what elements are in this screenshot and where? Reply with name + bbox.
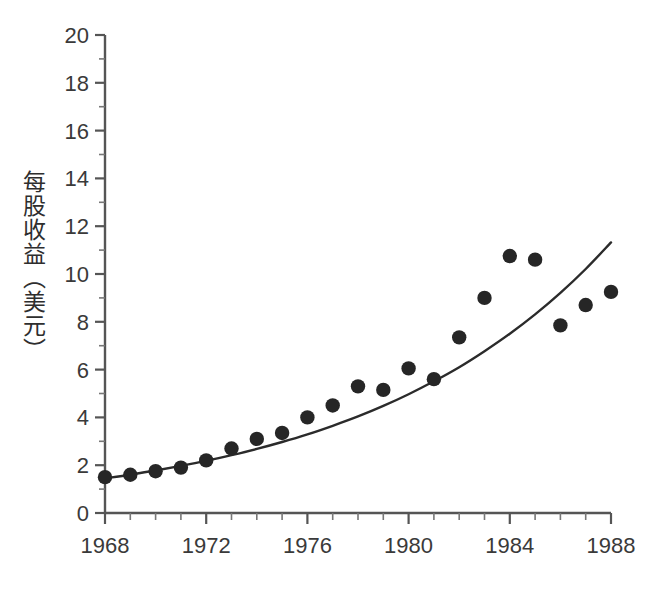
data-point — [148, 464, 162, 478]
x-tick-label: 1984 — [485, 533, 534, 558]
data-point — [174, 460, 188, 474]
data-point — [452, 330, 466, 344]
y-axis-ticks — [95, 35, 105, 513]
data-point — [427, 372, 441, 386]
data-point — [199, 453, 213, 467]
y-tick-label: 8 — [77, 310, 89, 335]
x-tick-label: 1976 — [283, 533, 332, 558]
y-tick-label: 20 — [65, 23, 89, 48]
data-point — [351, 379, 365, 393]
plot-area: 02468101214161820 1968197219761980198419… — [0, 0, 662, 591]
x-tick-label: 1972 — [182, 533, 231, 558]
y-axis-tick-labels: 02468101214161820 — [65, 23, 89, 526]
y-tick-label: 6 — [77, 358, 89, 383]
data-point — [579, 298, 593, 312]
data-point — [528, 252, 542, 266]
data-point — [604, 285, 618, 299]
y-tick-label: 4 — [77, 405, 89, 430]
data-point — [477, 291, 491, 305]
data-point — [123, 468, 137, 482]
data-point — [326, 398, 340, 412]
data-point — [250, 432, 264, 446]
y-tick-label: 10 — [65, 262, 89, 287]
y-tick-label: 18 — [65, 71, 89, 96]
data-point — [503, 249, 517, 263]
data-point — [300, 410, 314, 424]
x-tick-label: 1988 — [587, 533, 636, 558]
y-tick-label: 16 — [65, 119, 89, 144]
data-point — [401, 361, 415, 375]
x-tick-label: 1980 — [384, 533, 433, 558]
axes — [105, 35, 611, 513]
chart-figure: 每股收益（美元） 02468101214161820 1968197219761… — [0, 0, 662, 591]
y-tick-label: 2 — [77, 453, 89, 478]
data-points — [98, 249, 618, 484]
y-tick-label: 12 — [65, 214, 89, 239]
data-point — [224, 441, 238, 455]
y-tick-label: 14 — [65, 166, 89, 191]
data-point — [275, 426, 289, 440]
data-point — [553, 318, 567, 332]
trend-line — [105, 242, 611, 478]
x-axis-tick-labels: 196819721976198019841988 — [81, 533, 636, 558]
y-tick-label: 0 — [77, 501, 89, 526]
data-point — [376, 383, 390, 397]
x-tick-label: 1968 — [81, 533, 130, 558]
data-point — [98, 470, 112, 484]
x-axis-ticks — [105, 513, 611, 524]
